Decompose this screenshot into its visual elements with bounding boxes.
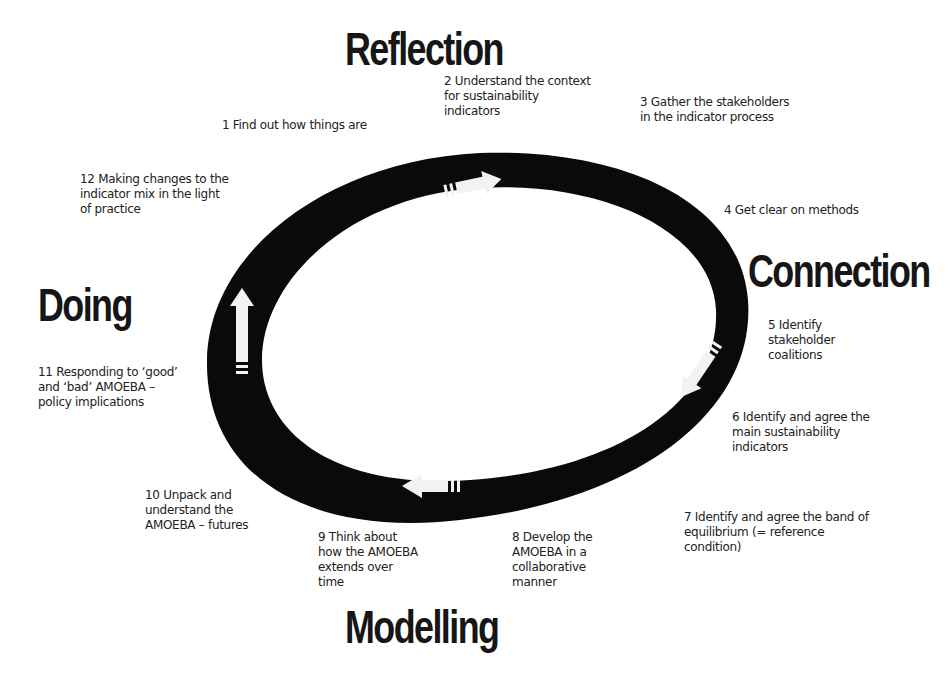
phase-label-reflection: Reflection (345, 26, 503, 72)
step-12: 12 Making changes to the indicator mix i… (80, 172, 229, 217)
step-4: 4 Get clear on methods (724, 203, 859, 218)
step-6: 6 Identify and agree the main sustainabi… (732, 410, 870, 455)
step-1: 1 Find out how things are (222, 118, 367, 133)
step-10: 10 Unpack and understand the AMOEBA – fu… (145, 488, 248, 533)
step-11: 11 Responding to ‘good’ and ‘bad’ AMOEBA… (38, 365, 178, 410)
phase-label-modelling: Modelling (345, 604, 498, 650)
step-5: 5 Identify stakeholder coalitions (768, 318, 835, 363)
step-7: 7 Identify and agree the band of equilib… (684, 510, 869, 555)
step-8: 8 Develop the AMOEBA in a collaborative … (512, 530, 592, 590)
ring-band (207, 153, 748, 523)
step-2: 2 Understand the context for sustainabil… (444, 74, 591, 119)
phase-label-connection: Connection (748, 248, 930, 294)
step-9: 9 Think about how the AMOEBA extends ove… (318, 530, 418, 590)
step-3: 3 Gather the stakeholders in the indicat… (640, 95, 789, 125)
phase-label-doing: Doing (38, 282, 132, 328)
